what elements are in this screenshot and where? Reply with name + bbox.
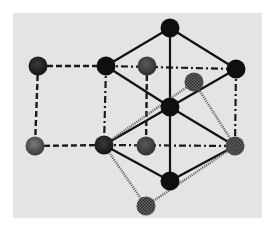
atom-black — [161, 172, 180, 191]
atom-black — [161, 98, 180, 117]
bond-dashed — [146, 66, 147, 146]
atom-black — [97, 57, 116, 76]
atom-mottled — [26, 137, 45, 156]
atom-grey — [137, 137, 156, 156]
atom-grey — [138, 57, 157, 76]
atom-checker — [185, 73, 204, 92]
crystal-lattice-diagram — [0, 0, 273, 232]
diagram-background-panel — [13, 13, 262, 218]
atom-dark — [95, 136, 114, 155]
atom-black — [161, 19, 180, 38]
atom-checker — [137, 197, 156, 216]
bond-dashdot — [104, 145, 235, 146]
atom-black — [227, 60, 246, 79]
atom-dark — [29, 57, 48, 76]
atom-checker — [226, 137, 245, 156]
lattice-canvas — [0, 0, 273, 232]
